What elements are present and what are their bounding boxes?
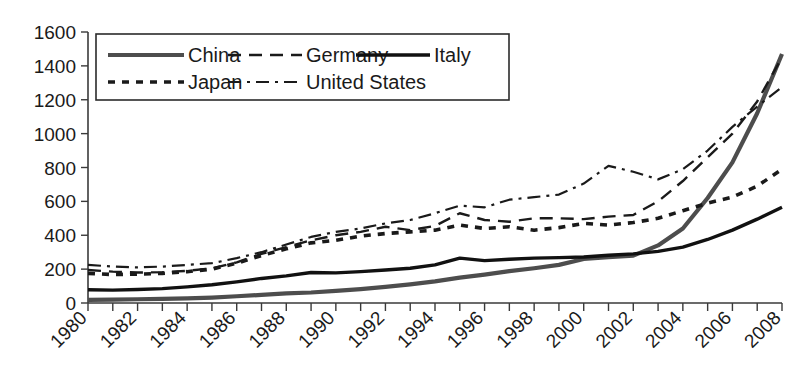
x-tick-label: 1984 bbox=[145, 307, 190, 352]
y-tick-label: 800 bbox=[44, 158, 76, 179]
x-tick-label: 1998 bbox=[492, 307, 537, 352]
x-tick-label: 1990 bbox=[294, 307, 339, 352]
series-line-italy bbox=[88, 207, 782, 290]
x-tick-label: 2008 bbox=[740, 307, 785, 352]
y-tick-label: 400 bbox=[44, 225, 76, 246]
legend-label-united-states: United States bbox=[306, 71, 426, 93]
x-tick-label: 2000 bbox=[542, 307, 587, 352]
y-tick-label: 1200 bbox=[34, 90, 76, 111]
x-tick-label: 1980 bbox=[46, 307, 91, 352]
x-tick-label: 1994 bbox=[393, 307, 438, 352]
chart-legend: ChinaGermanyItalyJapanUnited States bbox=[96, 34, 509, 100]
x-tick-label: 2004 bbox=[641, 307, 686, 352]
x-tick-label: 1992 bbox=[344, 307, 389, 352]
y-tick-label: 200 bbox=[44, 259, 76, 280]
x-tick-label: 2006 bbox=[691, 307, 736, 352]
x-tick-label: 2002 bbox=[591, 307, 636, 352]
y-tick-label: 1000 bbox=[34, 124, 76, 145]
legend-label-italy: Italy bbox=[434, 44, 471, 66]
x-axis: 1980198219841986198819901992199419961998… bbox=[46, 303, 785, 352]
x-tick-label: 1986 bbox=[195, 307, 240, 352]
x-tick-label: 1996 bbox=[443, 307, 488, 352]
x-tick-label: 1988 bbox=[244, 307, 289, 352]
line-chart: 02004006008001000120014001600 1980198219… bbox=[0, 0, 804, 369]
y-tick-label: 1600 bbox=[34, 22, 76, 43]
y-tick-label: 1400 bbox=[34, 56, 76, 77]
chart-canvas: 02004006008001000120014001600 1980198219… bbox=[0, 0, 804, 369]
y-tick-label: 600 bbox=[44, 191, 76, 212]
x-tick-label: 1982 bbox=[96, 307, 141, 352]
y-axis: 02004006008001000120014001600 bbox=[34, 22, 88, 314]
series-line-united-states bbox=[88, 87, 782, 267]
